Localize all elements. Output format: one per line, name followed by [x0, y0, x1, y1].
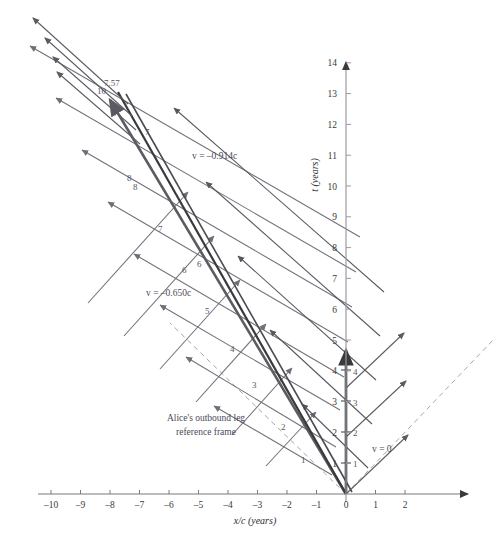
velocity-label-914: v = –0.914c — [192, 151, 237, 161]
t-tick-label-9: 10 — [328, 182, 338, 192]
x-tick-label-3: –7 — [134, 500, 145, 510]
bob-proper-time-label-1: 1 — [353, 459, 358, 469]
t-tick-label-1: 2 — [332, 428, 337, 438]
x-tick-label-5: –5 — [193, 500, 204, 510]
reference-frame-note-line1: Alice's outbound leg — [167, 413, 245, 423]
spacetime-diagram-canvas: –10–9–8–7–6–5–4–3–2–1012 123456789101112… — [0, 0, 504, 554]
grid-650-label-4: 4 — [230, 344, 235, 354]
grid-650-label-1: 1 — [301, 455, 306, 465]
sim-line-914-3 — [238, 256, 376, 380]
t-tick-label-6: 7 — [332, 274, 337, 284]
x-tick-label-2: –8 — [104, 500, 115, 510]
t-tick-label-4: 5 — [332, 336, 337, 346]
grid-914-label-9: 9 — [112, 108, 117, 118]
sim-line-650-5 — [108, 202, 348, 342]
grid-650-label-8: 8 — [133, 182, 138, 192]
sim-line-914-4 — [206, 182, 380, 336]
x-axis-tick-labels: –10–9–8–7–6–5–4–3–2–1012 — [43, 500, 408, 510]
reference-frame-note-line2: reference frame — [176, 427, 236, 437]
grid-650-label-5: 5 — [205, 306, 210, 316]
x-tick-label-4: –6 — [163, 500, 174, 510]
x-tick-label-7: –3 — [252, 500, 263, 510]
grid-family-650 — [30, 46, 360, 475]
x-tick-label-0: –10 — [43, 500, 59, 510]
x-tick-label-11: 1 — [373, 500, 378, 510]
x-tick-label-6: –4 — [222, 500, 233, 510]
t-tick-label-3: 4 — [332, 366, 337, 376]
bob-proper-time-label-3: 3 — [353, 398, 358, 408]
grid-650-label-7: 7 — [158, 224, 163, 234]
x-tick-label-1: –9 — [75, 500, 86, 510]
grid-650-label-3: 3 — [252, 380, 257, 390]
ul-arrow-1 — [33, 18, 128, 104]
sim-line-650-8 — [30, 46, 360, 237]
velocity-label-zero: v = 0 — [372, 444, 392, 454]
x-tick-label-10: 0 — [344, 500, 349, 510]
x-tick-label-12: 2 — [403, 500, 408, 510]
special-value-label: 7.57 — [104, 78, 120, 88]
t-tick-label-0: 1 — [332, 459, 337, 469]
t-tick-label-2: 3 — [332, 397, 337, 407]
t-axis-title: t (years) — [309, 158, 321, 192]
t-tick-label-11: 12 — [328, 120, 338, 130]
sim-line-914-2 — [270, 330, 372, 424]
t-tick-label-8: 9 — [332, 212, 337, 222]
t-tick-label-10: 11 — [328, 151, 337, 161]
x-tick-label-8: –2 — [281, 500, 292, 510]
grid-914-label-7: 7 — [145, 127, 150, 137]
grid-914-tick-labels: 678910 — [97, 86, 202, 269]
diagram-svg: –10–9–8–7–6–5–4–3–2–1012 123456789101112… — [0, 0, 504, 554]
grid-650-label-2: 2 — [281, 422, 286, 432]
t-tick-label-5: 6 — [332, 305, 337, 315]
ul-arrow-2 — [45, 38, 132, 116]
signal-family-up-right — [346, 333, 408, 494]
x-tick-label-9: –1 — [311, 500, 322, 510]
velocity-label-650: v = –0.650c — [146, 288, 191, 298]
bob-proper-time-label-4: 4 — [353, 367, 358, 377]
axes-group — [38, 62, 468, 502]
x-axis-title: x/c (years) — [233, 515, 277, 527]
t-tick-label-13: 14 — [328, 58, 338, 68]
grid-914-label-8: 8 — [127, 173, 132, 183]
t-tick-label-7: 8 — [332, 243, 337, 253]
t-tick-label-12: 13 — [328, 89, 338, 99]
ul-arrow-3 — [53, 57, 136, 130]
pos-line-650-f — [88, 192, 188, 303]
grid-650-label-6: 6 — [182, 265, 187, 275]
bob-proper-time-label-2: 2 — [353, 428, 358, 438]
grid-914-label-6: 6 — [197, 259, 202, 269]
